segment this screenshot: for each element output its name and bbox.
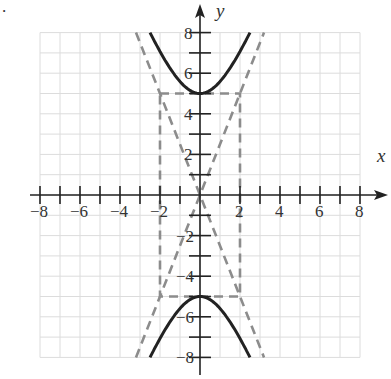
x-tick-label: 2 [235, 202, 244, 221]
x-tick-label: 8 [355, 202, 364, 221]
x-axis-label: x [376, 145, 386, 166]
x-tick-label: −4 [110, 202, 129, 221]
figure-bullet: . [2, 0, 6, 16]
x-tick-label: −8 [30, 202, 48, 221]
x-tick-label: 6 [315, 202, 324, 221]
y-tick-label: −6 [176, 308, 194, 327]
y-tick-label: −8 [176, 348, 194, 367]
axes [30, 4, 388, 375]
y-tick-label: 4 [184, 105, 193, 124]
y-tick-label: 2 [184, 145, 193, 164]
y-tick-label: −4 [176, 267, 195, 286]
x-tick-label: −2 [150, 202, 168, 221]
y-axis-label: y [214, 0, 225, 21]
y-tick-label: −2 [176, 227, 194, 246]
y-tick-label: 6 [184, 64, 193, 83]
y-tick-label: 8 [184, 24, 193, 43]
hyperbola-plot: . −8−6−4−224688642−2−4−6−8 x y [0, 0, 391, 379]
x-tick-label: −6 [70, 202, 88, 221]
x-tick-label: 4 [275, 202, 284, 221]
